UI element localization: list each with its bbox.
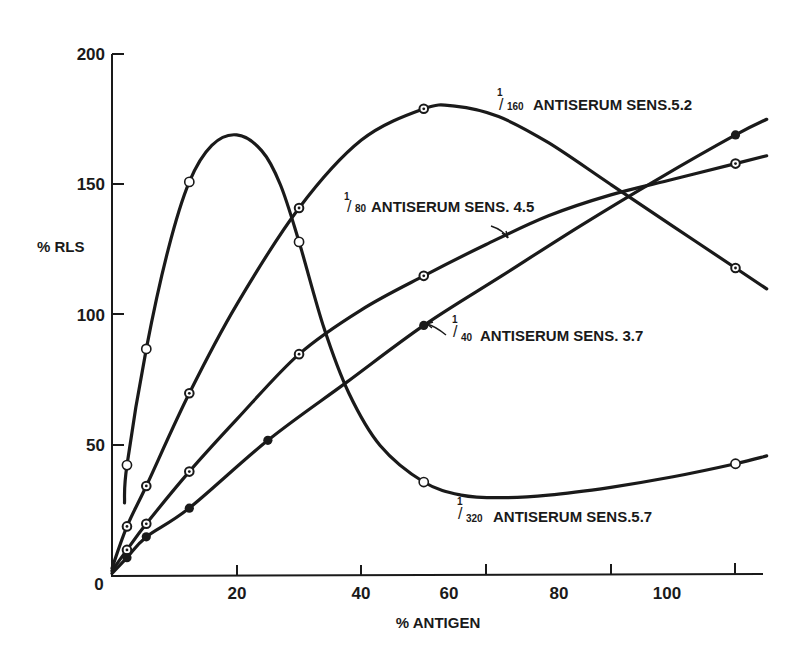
label-1-320-slash: /: [458, 505, 463, 522]
series-1-160-marker-dotted-circle-icon: [295, 204, 304, 213]
series-1-80-marker-dotted-circle-icon: [731, 159, 740, 168]
series-1-320-marker-open-circle-icon: [294, 237, 303, 246]
series-1-320-marker-open-circle-icon: [185, 177, 194, 186]
series-1-320-line: [124, 135, 766, 503]
series-1-160-marker-dotted-circle-icon: [731, 264, 740, 273]
x-axis-title: % ANTIGEN: [396, 614, 480, 631]
series-1-40-marker-filled-circle-icon: [142, 532, 151, 541]
series-1-80-marker-dotted-circle-icon: [185, 467, 194, 476]
series-1-40-line: [112, 119, 767, 573]
series-1-80-marker-dotted-circle-icon: [419, 272, 428, 281]
x-axis-line: [111, 574, 763, 576]
series-1-160-marker-dotted-circle-icon: [185, 389, 194, 398]
label-1-40-text: ANTISERUM SENS. 3.7: [480, 327, 643, 344]
y-tick-label-50: 50: [86, 436, 105, 455]
series-1-320-marker-open-circle-icon: [142, 344, 151, 353]
y-axis-title: % RLS: [37, 238, 85, 255]
x-tick-label-100: 100: [653, 584, 681, 603]
x-tick-label-20: 20: [228, 584, 247, 603]
series-1-40-marker-filled-circle-icon: [185, 504, 194, 513]
y-tick-label-200: 200: [77, 45, 105, 64]
label-1-80-slash: /: [347, 198, 352, 215]
label-1-160-text: ANTISERUM SENS.5.2: [533, 96, 692, 113]
label-1-40-slash: /: [453, 323, 458, 340]
series-curves: [112, 105, 767, 573]
series-1-80-marker-dotted-circle-icon: [123, 546, 132, 555]
label-1-40: 1 / 40 ANTISERUM SENS. 3.7: [452, 314, 643, 344]
label-1-320-denominator: 320: [466, 513, 483, 524]
antigen-response-chart: 200 150 100 50 0 20 40 60 80 100 % RLS %…: [0, 0, 806, 657]
y-tick-label-150: 150: [77, 175, 105, 194]
series-1-40-marker-filled-circle-icon: [263, 436, 272, 445]
x-tick-label-80: 80: [550, 584, 569, 603]
series-1-80-marker-dotted-circle-icon: [142, 520, 151, 529]
label-1-320-text: ANTISERUM SENS.5.7: [493, 508, 652, 525]
series-1-320-marker-open-circle-icon: [419, 477, 428, 486]
series-1-160-marker-dotted-circle-icon: [123, 522, 132, 531]
label-1-320: 1 / 320 ANTISERUM SENS.5.7: [457, 496, 652, 525]
label-1-40-denominator: 40: [461, 332, 473, 343]
label-1-80-denominator: 80: [355, 203, 367, 214]
label-1-80-text: ANTISERUM SENS. 4.5: [371, 198, 534, 215]
label-1-160-denominator: 160: [507, 101, 524, 112]
series-1-40-marker-filled-circle-icon: [731, 130, 740, 139]
y-tick-label-100: 100: [77, 306, 105, 325]
series-1-320-marker-open-circle-icon: [122, 460, 131, 469]
series-1-160-marker-dotted-circle-icon: [142, 482, 151, 491]
label-1-160-slash: /: [499, 96, 504, 113]
x-tick-label-60: 60: [440, 584, 459, 603]
x-tick-label-40: 40: [352, 584, 371, 603]
series-1-320-marker-open-circle-icon: [731, 459, 740, 468]
series-1-160-marker-dotted-circle-icon: [419, 105, 428, 114]
series-1-80-line: [112, 156, 767, 571]
label-1-160: 1 / 160 ANTISERUM SENS.5.2: [497, 87, 692, 113]
series-markers: [122, 105, 740, 563]
label-1-80: 1 / 80 ANTISERUM SENS. 4.5: [344, 191, 534, 215]
series-1-80-marker-dotted-circle-icon: [295, 350, 304, 359]
series-1-40-marker-filled-circle-icon: [419, 321, 428, 330]
origin-label: 0: [94, 575, 103, 594]
series-1-40-marker-filled-circle-icon: [122, 553, 131, 562]
